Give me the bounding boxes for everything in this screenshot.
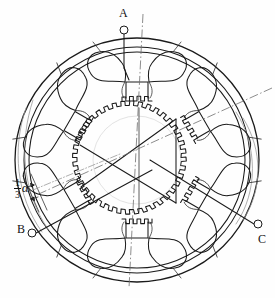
terminal-label-c: C <box>258 232 266 247</box>
terminal-label-b: B <box>17 222 25 237</box>
fraction-one-third: 1 3 <box>14 178 21 199</box>
motor-housing <box>15 38 259 282</box>
rotor <box>73 101 187 214</box>
terminal-b[interactable] <box>28 229 36 237</box>
fraction-numerator: 1 <box>15 178 20 187</box>
terminal-c[interactable] <box>254 220 262 228</box>
fraction-denominator: 3 <box>15 190 20 199</box>
stator-pole-4 <box>88 219 187 278</box>
stator-pole-2 <box>163 58 264 173</box>
motor-cross-section-figure: .ln { fill:none; stroke:#1a1a1a; stroke-… <box>0 0 275 298</box>
centre-axes <box>30 14 272 288</box>
lead-wire-c <box>150 160 254 224</box>
terminal-label-a: A <box>119 6 128 21</box>
stator-pole-3 <box>163 147 264 262</box>
angle-offset-label: 1 3 α <box>14 178 28 199</box>
lead-wire-a-tail <box>124 68 129 80</box>
diagonal-centre-axis <box>30 88 272 198</box>
stator-poles <box>10 42 264 278</box>
stator-yoke <box>29 52 245 268</box>
stator-pole-1 <box>88 42 187 101</box>
alpha-symbol: α <box>22 182 28 195</box>
diagram-canvas: .ln { fill:none; stroke:#1a1a1a; stroke-… <box>0 0 275 298</box>
terminal-a[interactable] <box>120 26 128 34</box>
